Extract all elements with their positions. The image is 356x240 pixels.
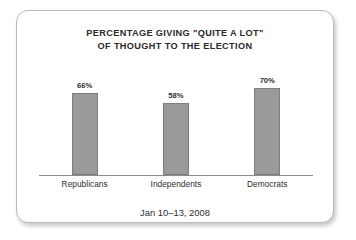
bar-independents[interactable] [163, 103, 189, 175]
chart-footer-date: Jan 10–13, 2008 [17, 207, 333, 218]
bar-value-independents: 58% [153, 91, 199, 100]
bar-value-democrats: 70% [244, 76, 290, 85]
chart-title-line-2: OF THOUGHT TO THE ELECTION [17, 40, 333, 53]
plot-area: 66% 58% 70% [39, 66, 313, 176]
bar-group-independents: 58% [130, 66, 221, 175]
bar-group-republicans: 66% [39, 66, 130, 175]
x-axis-line [39, 175, 313, 176]
category-axis-labels: Republicans Independents Democrats [39, 179, 313, 193]
bar-value-republicans: 66% [62, 81, 108, 90]
category-label-independents: Independents [130, 179, 221, 189]
category-label-democrats: Democrats [222, 179, 313, 189]
bar-group-democrats: 70% [222, 66, 313, 175]
chart-card: PERCENTAGE GIVING "QUITE A LOT" OF THOUG… [16, 10, 334, 223]
chart-title-line-1: PERCENTAGE GIVING "QUITE A LOT" [17, 27, 333, 40]
category-label-republicans: Republicans [39, 179, 130, 189]
bar-democrats[interactable] [254, 88, 280, 175]
chart-title: PERCENTAGE GIVING "QUITE A LOT" OF THOUG… [17, 27, 333, 52]
bar-republicans[interactable] [72, 93, 98, 175]
